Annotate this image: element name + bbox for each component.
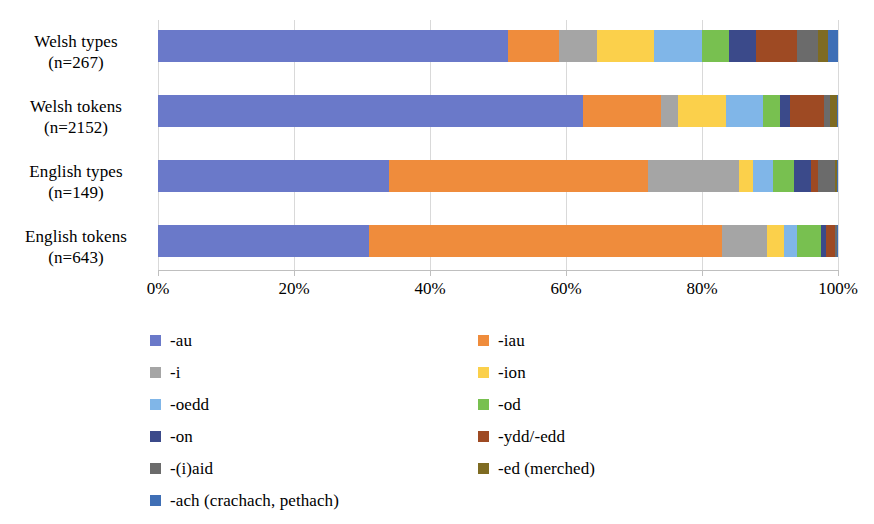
legend-item[interactable]: -od: [478, 394, 521, 418]
legend-label: -ion: [498, 362, 526, 384]
bar-segment: [158, 30, 508, 62]
chart-legend: -au-iau-i-ion-oedd-od-on-ydd/-edd-(i)aid…: [0, 330, 874, 524]
x-axis-tick-labels: 0%20%40%60%80%100%: [0, 278, 874, 304]
x-tick-label: 0%: [118, 278, 198, 300]
legend-item[interactable]: -(i)aid: [150, 458, 213, 482]
legend-swatch-icon: [150, 399, 161, 410]
bar-segment: [389, 160, 647, 192]
axis-tick: [430, 270, 431, 276]
bar-segment: [739, 160, 753, 192]
legend-label: -od: [498, 394, 521, 416]
bar-segment: [790, 95, 824, 127]
bars-container: [158, 20, 838, 270]
bar-segment: [763, 95, 780, 127]
x-tick-label: 80%: [662, 278, 742, 300]
category-label: English types(n=149): [0, 161, 152, 203]
axis-tick: [566, 270, 567, 276]
bar-segment: [158, 225, 369, 257]
axis-tick: [838, 270, 839, 276]
bar-row: [158, 95, 838, 127]
category-label-line1: English tokens: [0, 226, 152, 247]
legend-label: -au: [170, 330, 192, 352]
bar-segment: [828, 30, 838, 62]
bar-segment: [767, 225, 784, 257]
legend-swatch-icon: [478, 399, 489, 410]
bar-segment: [773, 160, 793, 192]
legend-item[interactable]: -on: [150, 426, 193, 450]
legend-swatch-icon: [150, 335, 161, 346]
legend-item[interactable]: -ion: [478, 362, 526, 386]
legend-label: -iau: [498, 330, 525, 352]
legend-swatch-icon: [150, 367, 161, 378]
bar-segment: [830, 95, 837, 127]
category-label-line1: English types: [0, 161, 152, 182]
category-label-line1: Welsh types: [0, 31, 152, 52]
bar-segment: [726, 95, 763, 127]
legend-label: -ach (crachach, pethach): [170, 490, 339, 512]
legend-swatch-icon: [150, 431, 161, 442]
bar-segment: [702, 30, 729, 62]
x-tick-label: 40%: [390, 278, 470, 300]
legend-item[interactable]: -i: [150, 362, 181, 386]
category-label-line2: (n=2152): [0, 117, 152, 138]
bar-segment: [661, 95, 678, 127]
legend-swatch-icon: [478, 335, 489, 346]
bar-segment: [797, 30, 817, 62]
category-label: Welsh types(n=267): [0, 31, 152, 73]
x-tick-label: 100%: [798, 278, 874, 300]
legend-item[interactable]: -ed (merched): [478, 458, 595, 482]
bar-segment: [756, 30, 797, 62]
axis-tick: [294, 270, 295, 276]
legend-label: -oedd: [170, 394, 209, 416]
legend-label: -on: [170, 426, 193, 448]
gridline: [838, 20, 839, 270]
plot-area: Welsh types(n=267)Welsh tokens(n=2152)En…: [0, 0, 874, 300]
x-axis-line: [158, 270, 839, 271]
legend-item[interactable]: -au: [150, 330, 192, 354]
legend-swatch-icon: [150, 463, 161, 474]
category-label: English tokens(n=643): [0, 226, 152, 268]
category-label-line2: (n=643): [0, 247, 152, 268]
bar-segment: [722, 225, 766, 257]
bar-segment: [648, 160, 740, 192]
x-tick-label: 20%: [254, 278, 334, 300]
category-label-line1: Welsh tokens: [0, 96, 152, 117]
legend-item[interactable]: -iau: [478, 330, 525, 354]
axis-tick: [158, 270, 159, 276]
bar-segment: [583, 95, 661, 127]
bar-segment: [654, 30, 702, 62]
bar-row: [158, 30, 838, 62]
bar-segment: [508, 30, 559, 62]
bar-segment: [826, 225, 834, 257]
legend-item[interactable]: -ach (crachach, pethach): [150, 490, 339, 514]
bar-segment: [784, 225, 798, 257]
bar-segment: [837, 95, 838, 127]
bar-segment: [811, 160, 818, 192]
bar-segment: [559, 30, 596, 62]
legend-label: -ydd/-edd: [498, 426, 565, 448]
bar-segment: [369, 225, 723, 257]
bar-segment: [753, 160, 773, 192]
bar-segment: [158, 95, 583, 127]
bar-segment: [158, 160, 389, 192]
bar-segment: [818, 160, 835, 192]
bar-segment: [837, 225, 838, 257]
category-label-line2: (n=267): [0, 52, 152, 73]
legend-item[interactable]: -oedd: [150, 394, 209, 418]
legend-swatch-icon: [478, 367, 489, 378]
bar-segment: [818, 30, 828, 62]
legend-label: -ed (merched): [498, 458, 595, 480]
bar-segment: [794, 160, 811, 192]
category-label-line2: (n=149): [0, 182, 152, 203]
bar-segment: [678, 95, 726, 127]
legend-label: -(i)aid: [170, 458, 213, 480]
stacked-bar-chart: Welsh types(n=267)Welsh tokens(n=2152)En…: [0, 0, 874, 524]
bar-segment: [780, 95, 790, 127]
axis-tick: [702, 270, 703, 276]
legend-swatch-icon: [150, 495, 161, 506]
bar-segment: [837, 160, 838, 192]
legend-label: -i: [170, 362, 181, 384]
legend-item[interactable]: -ydd/-edd: [478, 426, 565, 450]
bar-segment: [797, 225, 821, 257]
bar-segment: [729, 30, 756, 62]
